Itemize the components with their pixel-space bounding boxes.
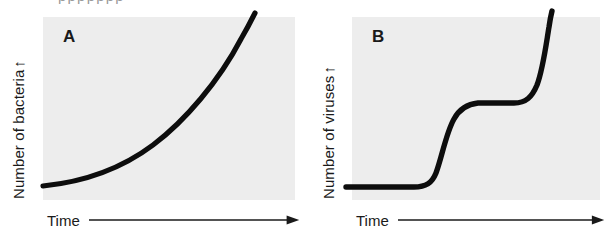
arrow-up-icon: ↑: [320, 66, 337, 74]
panel-b: B: [352, 17, 600, 200]
panel-b-y-axis-label: Number of viruses↑: [320, 66, 337, 199]
exponential-growth-curve: [43, 17, 295, 200]
one-step-growth-curve: [352, 17, 600, 200]
arrow-up-icon: ↑: [10, 60, 27, 68]
panel-a: A: [43, 17, 295, 200]
panel-b-y-axis-label-text: Number of viruses: [320, 76, 337, 199]
panel-b-x-axis-label: Time: [356, 212, 389, 229]
panel-a-letter: A: [63, 27, 76, 47]
panel-a-x-axis: Time: [47, 207, 299, 233]
panel-b-x-axis-arrow-icon: [398, 214, 604, 226]
panel-b-x-axis: Time: [356, 207, 604, 233]
panel-a-x-axis-arrow-icon: [89, 214, 299, 226]
panel-a-y-axis-label-text: Number of bacteria: [10, 70, 27, 199]
panel-a-y-axis-label: Number of bacteria↑: [10, 60, 27, 199]
panel-b-letter: B: [372, 27, 385, 47]
panel-a-x-axis-label: Time: [47, 212, 80, 229]
growth-curves-figure: A Number of bacteria↑ Time B Number of v…: [0, 0, 607, 239]
